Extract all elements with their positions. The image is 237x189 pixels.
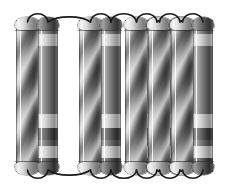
tube-10-cap-bottom	[192, 162, 214, 175]
tube-4-edge-left	[101, 20, 102, 172]
tube-2-edge-right	[57, 20, 58, 172]
tube-2-edge-left	[38, 20, 39, 172]
tube-3-edge-left	[79, 20, 80, 172]
tube-1	[16, 20, 39, 172]
tube-9-highlight	[175, 20, 176, 172]
tube-10-cap-top	[192, 17, 214, 30]
tube-2-highlight	[41, 20, 42, 172]
tube-2-rim-top	[37, 30, 59, 31]
tube-10-rim-top	[192, 30, 214, 31]
tube-9	[171, 20, 194, 172]
tube-10	[193, 20, 213, 172]
tube-4-rim-bottom	[100, 161, 122, 162]
tube-10-rim-bottom	[192, 161, 214, 162]
tube-4-rim-top	[100, 30, 122, 31]
tube-3-highlight	[83, 20, 84, 172]
tube-5	[125, 20, 148, 172]
tube-2-rim-bottom	[37, 161, 59, 162]
tube-bundle	[0, 0, 237, 189]
tube-4	[101, 20, 121, 172]
tube-2-cap-bottom	[37, 162, 59, 175]
illustration-canvas: Coiled tube bundle illustration Row of v…	[0, 0, 237, 189]
tube-10-edge-left	[193, 20, 194, 172]
tube-2-cap-top	[37, 17, 59, 30]
tube-5-highlight	[129, 20, 130, 172]
tube-5-edge-left	[125, 20, 126, 172]
tube-1-edge-left	[16, 20, 17, 172]
tube-10-highlight	[196, 20, 197, 172]
tube-7	[148, 20, 171, 172]
tube-4-highlight	[104, 20, 105, 172]
tube-7-highlight	[152, 20, 153, 172]
tube-4-cap-top	[100, 17, 122, 30]
tube-3	[79, 20, 102, 172]
tube-2	[38, 20, 58, 172]
tube-9-edge-left	[171, 20, 172, 172]
tube-4-edge-right	[120, 20, 121, 172]
tube-4-cap-bottom	[100, 162, 122, 175]
tube-7-edge-left	[148, 20, 149, 172]
tube-10-edge-right	[212, 20, 213, 172]
tube-1-highlight	[20, 20, 21, 172]
